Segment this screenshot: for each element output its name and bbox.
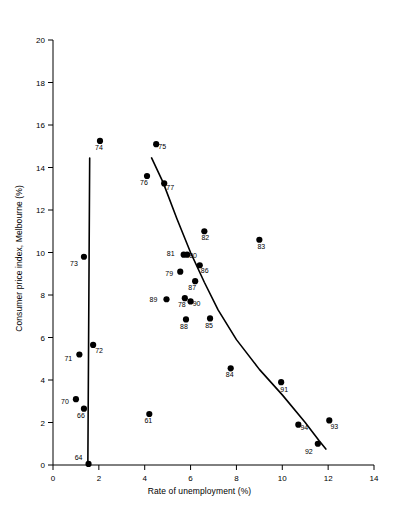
point-label-85: 85: [205, 322, 213, 329]
x-axis-label: Rate of unemployment (%): [0, 486, 399, 496]
point-label-70: 70: [61, 398, 69, 405]
y-tick-label: 20: [36, 36, 45, 45]
data-point-88[interactable]: [183, 316, 189, 322]
data-point-70[interactable]: [73, 396, 79, 402]
x-tick-label: 6: [188, 474, 193, 483]
point-label-71: 71: [64, 355, 72, 362]
data-point-71[interactable]: [76, 351, 82, 357]
x-tick-label: 10: [278, 474, 287, 483]
y-tick-label: 2: [41, 419, 46, 428]
data-point-91[interactable]: [278, 379, 284, 385]
y-tick-label: 0: [41, 461, 46, 470]
data-point-73[interactable]: [81, 254, 87, 260]
x-axis-ticks: 02468101214: [51, 465, 379, 483]
point-label-61: 61: [144, 417, 152, 424]
data-point-79[interactable]: [177, 269, 183, 275]
axes: [53, 40, 374, 465]
x-tick-label: 4: [142, 474, 147, 483]
data-point-81[interactable]: [181, 252, 187, 258]
point-label-82: 82: [201, 234, 209, 241]
plot-canvas: 02468101214 02468101214161820 6466617071…: [0, 0, 399, 517]
y-axis-label: Consumer price index, Melbourne (%): [12, 0, 26, 517]
point-label-81: 81: [167, 250, 175, 257]
y-tick-label: 18: [36, 79, 45, 88]
x-tick-label: 8: [234, 474, 239, 483]
point-label-83: 83: [257, 243, 265, 250]
y-tick-label: 8: [41, 291, 46, 300]
point-label-94: 94: [300, 424, 308, 431]
data-point-85[interactable]: [207, 315, 213, 321]
y-tick-label: 16: [36, 121, 45, 130]
point-label-74: 74: [95, 144, 103, 151]
data-points: 6466617071727374757677787980818283848586…: [61, 138, 338, 467]
x-tick-label: 14: [370, 474, 379, 483]
point-label-84: 84: [226, 371, 234, 378]
vertical-trend-line: [88, 158, 90, 465]
x-tick-label: 2: [97, 474, 102, 483]
point-label-86: 86: [201, 267, 209, 274]
trend-lines: [88, 158, 326, 465]
point-label-73: 73: [70, 260, 78, 267]
point-label-78: 78: [178, 301, 186, 308]
point-label-90: 90: [193, 300, 201, 307]
point-label-93: 93: [330, 423, 338, 430]
point-label-77: 77: [166, 184, 174, 191]
scatter-plot-figure: 02468101214 02468101214161820 6466617071…: [0, 0, 399, 517]
y-tick-label: 6: [41, 334, 46, 343]
point-label-92: 92: [305, 448, 313, 455]
point-label-88: 88: [180, 323, 188, 330]
data-point-64[interactable]: [85, 461, 91, 467]
point-label-66: 66: [77, 412, 85, 419]
point-label-91: 91: [280, 386, 288, 393]
point-label-76: 76: [140, 179, 148, 186]
point-label-64: 64: [75, 454, 83, 461]
data-point-92[interactable]: [315, 441, 321, 447]
point-label-79: 79: [165, 270, 173, 277]
y-tick-label: 12: [36, 206, 45, 215]
y-axis-ticks: 02468101214161820: [36, 36, 53, 470]
x-tick-label: 0: [51, 474, 56, 483]
y-tick-label: 4: [41, 376, 46, 385]
y-tick-label: 14: [36, 164, 45, 173]
point-label-87: 87: [188, 284, 196, 291]
y-tick-label: 10: [36, 249, 45, 258]
point-label-80: 80: [189, 252, 197, 259]
x-tick-label: 12: [324, 474, 333, 483]
point-label-72: 72: [95, 347, 103, 354]
point-label-89: 89: [150, 296, 158, 303]
point-label-75: 75: [158, 143, 166, 150]
data-point-89[interactable]: [163, 296, 169, 302]
